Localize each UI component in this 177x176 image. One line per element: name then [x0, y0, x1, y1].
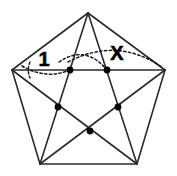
pentagon-figure: 1 X [0, 0, 177, 176]
angle-label-x: X [110, 42, 124, 64]
dot-inner-right-top [104, 67, 111, 74]
dot-inner-left [55, 104, 62, 111]
dot-inner-right [115, 104, 122, 111]
dot-inner-bottom [87, 128, 94, 135]
pentagon-body [12, 13, 165, 164]
angle-label-one: 1 [38, 48, 49, 70]
dot-inner-left-top [67, 67, 74, 74]
pentagon-diagram-svg: 1 X [0, 0, 177, 176]
